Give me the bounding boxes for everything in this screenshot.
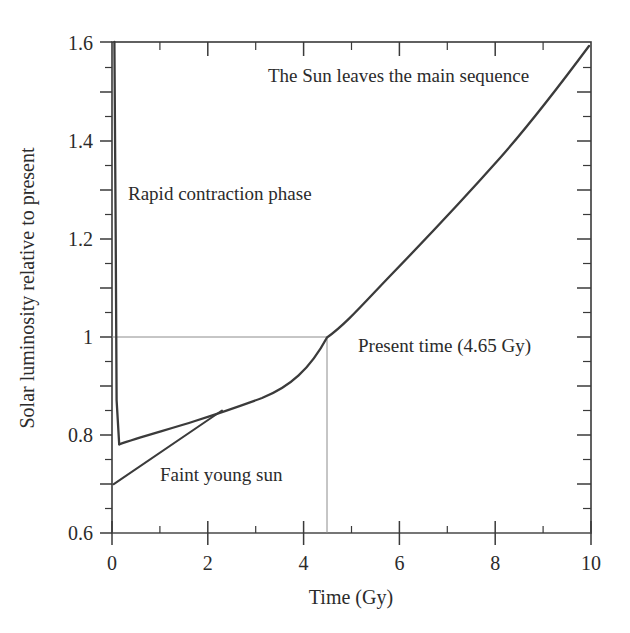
annotation-sun-leaves-main-sequence: The Sun leaves the main sequence: [268, 65, 529, 86]
y-tick-labels: 0.6 0.8 1 1.2 1.4 1.6: [68, 32, 93, 544]
x-tick-label-4: 4: [299, 552, 309, 574]
series-solar-luminosity: [119, 46, 589, 444]
x-tick-label-2: 2: [203, 552, 213, 574]
axes-border: [112, 42, 591, 533]
y-axis-ticks-right: [577, 68, 591, 509]
y-axis-ticks: [100, 42, 112, 533]
annotation-present-time: Present time (4.65 Gy): [358, 335, 531, 357]
x-axis-ticks-top: [160, 42, 543, 56]
chart-svg: 0 2 4 6 8 10 0.6 0.8 1 1.2 1.4 1.6 Time …: [0, 0, 630, 633]
solar-luminosity-figure: 0 2 4 6 8 10 0.6 0.8 1 1.2 1.4 1.6 Time …: [0, 0, 630, 633]
y-tick-label-0.6: 0.6: [68, 522, 93, 544]
y-tick-label-1.2: 1.2: [68, 228, 93, 250]
x-tick-label-8: 8: [490, 552, 500, 574]
x-tick-label-6: 6: [394, 552, 404, 574]
x-axis-title: Time (Gy): [309, 586, 393, 609]
x-tick-label-10: 10: [581, 552, 601, 574]
y-tick-label-1.6: 1.6: [68, 32, 93, 54]
y-tick-label-0.8: 0.8: [68, 424, 93, 446]
plot-frame: [112, 42, 591, 533]
annotation-rapid-contraction-phase: Rapid contraction phase: [128, 183, 312, 204]
y-tick-label-1: 1: [83, 326, 93, 348]
y-tick-label-1.4: 1.4: [68, 130, 93, 152]
x-tick-label-0: 0: [107, 552, 117, 574]
y-axis-title: Solar luminosity relative to present: [16, 147, 39, 428]
series-rapid-contraction-phase: [114, 42, 119, 444]
annotation-faint-young-sun: Faint young sun: [160, 464, 283, 485]
reference-lines: [112, 337, 591, 533]
x-tick-labels: 0 2 4 6 8 10: [107, 552, 601, 574]
